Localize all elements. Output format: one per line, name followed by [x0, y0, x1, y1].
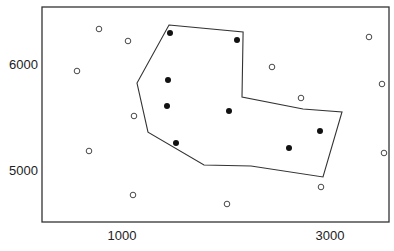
- open-point: [318, 184, 324, 190]
- x-tick-label: 3000: [316, 228, 345, 243]
- filled-point: [226, 108, 232, 114]
- open-point: [130, 192, 136, 198]
- filled-point: [234, 37, 240, 43]
- open-point: [86, 148, 92, 154]
- filled-point: [173, 140, 179, 146]
- filled-point: [167, 30, 173, 36]
- filled-point: [165, 77, 171, 83]
- filled-point: [286, 145, 292, 151]
- plot-frame: [42, 7, 389, 222]
- y-axis-tick-labels: 50006000: [9, 57, 38, 178]
- filled-point: [317, 128, 323, 134]
- open-point: [74, 68, 80, 74]
- y-tick-label: 6000: [9, 57, 38, 72]
- open-point: [96, 26, 102, 32]
- open-point: [131, 113, 137, 119]
- open-point: [125, 38, 131, 44]
- open-point: [379, 81, 385, 87]
- scatter-chart: 50006000 10003000: [0, 0, 394, 251]
- filled-point: [164, 103, 170, 109]
- open-point: [269, 64, 275, 70]
- open-point: [381, 150, 387, 156]
- x-axis-tick-labels: 10003000: [108, 228, 345, 243]
- open-point: [366, 34, 372, 40]
- y-tick-label: 5000: [9, 163, 38, 178]
- x-tick-label: 1000: [108, 228, 137, 243]
- open-point: [298, 95, 304, 101]
- open-point: [224, 201, 230, 207]
